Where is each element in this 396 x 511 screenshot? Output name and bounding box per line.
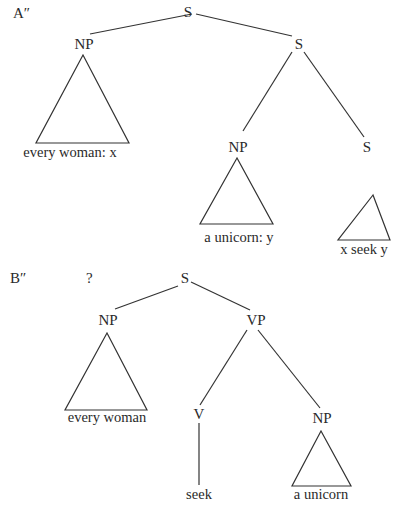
- node-np-object: NP: [228, 140, 247, 155]
- leaf-seek: seek: [186, 487, 212, 502]
- node-vp: VP: [246, 313, 265, 328]
- tree-lines: [0, 0, 396, 511]
- node-s-inner: S: [295, 37, 303, 52]
- node-s-root: S: [184, 5, 192, 20]
- node-np-subject: NP: [74, 37, 93, 52]
- leaf-x-seek-y: x seek y: [340, 242, 388, 257]
- node-np-subject: NP: [98, 313, 117, 328]
- leaf-every-woman: every woman: [68, 410, 147, 425]
- node-s-root: S: [181, 271, 189, 286]
- diagram-b-label: B″: [10, 271, 26, 286]
- leaf-every-woman-x: every woman: x: [23, 145, 116, 160]
- node-v: V: [194, 407, 205, 422]
- question-mark: ?: [86, 271, 93, 286]
- node-np-object: NP: [312, 411, 331, 426]
- leaf-a-unicorn-y: a unicorn: y: [204, 230, 273, 245]
- node-s-nuclear: S: [363, 140, 371, 155]
- diagram-a-label: A″: [13, 6, 30, 21]
- leaf-a-unicorn: a unicorn: [294, 487, 348, 502]
